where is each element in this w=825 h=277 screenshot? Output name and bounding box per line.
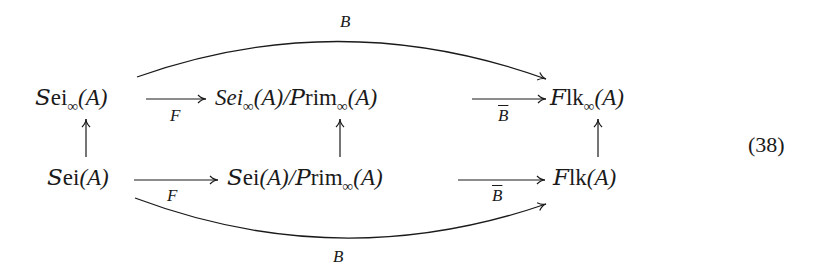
node-flk: Flk(A) — [553, 166, 616, 189]
bottom-curved-arrow — [135, 198, 546, 238]
node-sei-infinity-mod-prim-infinity: Sei∞(A)/Prim∞(A) — [215, 86, 377, 109]
node-sei-infinity: Sei∞(A) — [35, 86, 107, 109]
label-bottom-curve-B: B — [333, 247, 343, 267]
label-top-F: F — [170, 106, 180, 126]
top-curved-arrow — [137, 41, 546, 79]
label-top-curve-B: B — [340, 12, 350, 32]
label-top-Bbar: B — [498, 106, 508, 126]
equation-number: (38) — [748, 132, 785, 158]
node-flk-infinity: Flk∞(A) — [550, 86, 624, 109]
node-sei-mod-prim-infinity: Sei(A)/Prim∞(A) — [227, 166, 383, 189]
label-bottom-F: F — [167, 186, 177, 206]
arrow-layer — [0, 0, 825, 277]
node-sei: Sei(A) — [47, 166, 109, 189]
label-bottom-Bbar: B — [492, 186, 502, 206]
commutative-diagram: Sei∞(A) Sei∞(A)/Prim∞(A) Flk∞(A) Sei(A) … — [0, 0, 825, 277]
